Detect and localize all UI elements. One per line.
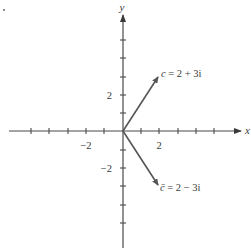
vector-c: c = 2 + 3i <box>123 68 202 131</box>
x-tick-label-2: 2 <box>156 140 161 151</box>
x-axis: x −2 2 <box>9 124 250 151</box>
vector-c-conjugate-label: c̄ = 2 − 3i <box>160 182 201 193</box>
complex-plane-diagram: x −2 2 y 2 −2 c = 2 + 3i c̄ = 2 <box>0 0 251 248</box>
bullet-dot <box>3 9 5 11</box>
vector-c-conjugate-label-expr: = 2 − 3i <box>165 182 201 193</box>
vector-c-label-expr: = 2 + 3i <box>166 68 202 79</box>
y-axis-label: y <box>119 1 125 13</box>
x-axis-label: x <box>244 124 250 136</box>
y-tick-label-neg2: −2 <box>101 163 112 174</box>
x-tick-label-neg2: −2 <box>80 140 91 151</box>
vector-c-label: c = 2 + 3i <box>161 68 202 79</box>
y-axis: y 2 −2 <box>101 1 126 248</box>
vector-c-conjugate: c̄ = 2 − 3i <box>123 131 201 193</box>
y-tick-label-2: 2 <box>107 90 112 101</box>
